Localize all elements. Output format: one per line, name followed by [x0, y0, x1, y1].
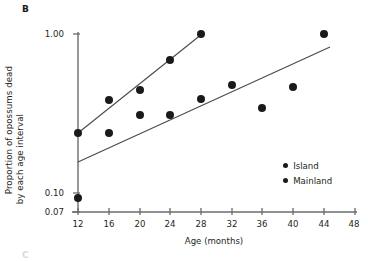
data-point: [289, 83, 297, 91]
data-point: [105, 129, 113, 137]
legend-item-island: Island: [283, 158, 332, 173]
filled-circle-icon: [283, 178, 288, 183]
data-point: [74, 129, 82, 137]
data-point: [136, 86, 144, 94]
data-point: [228, 81, 236, 89]
filled-circle-icon: [283, 163, 288, 168]
data-point: [105, 96, 113, 104]
data-point: [136, 111, 144, 119]
data-point: [258, 104, 266, 112]
legend-item-mainland: Mainland: [283, 173, 332, 188]
data-point: [197, 95, 205, 103]
y-axis-ticks: [73, 34, 80, 212]
legend-label-island: Island: [293, 161, 319, 171]
figure-panel-b: B C Proportion of opossums dead by each …: [0, 0, 368, 261]
data-point: [166, 56, 174, 64]
data-point: [320, 30, 328, 38]
legend-label-mainland: Mainland: [293, 176, 332, 186]
trendline-mainland: [78, 47, 330, 162]
data-point: [74, 194, 82, 202]
data-point: [197, 30, 205, 38]
plot-area: [0, 0, 368, 261]
chart-legend: Island Mainland: [283, 158, 332, 188]
data-point: [166, 111, 174, 119]
